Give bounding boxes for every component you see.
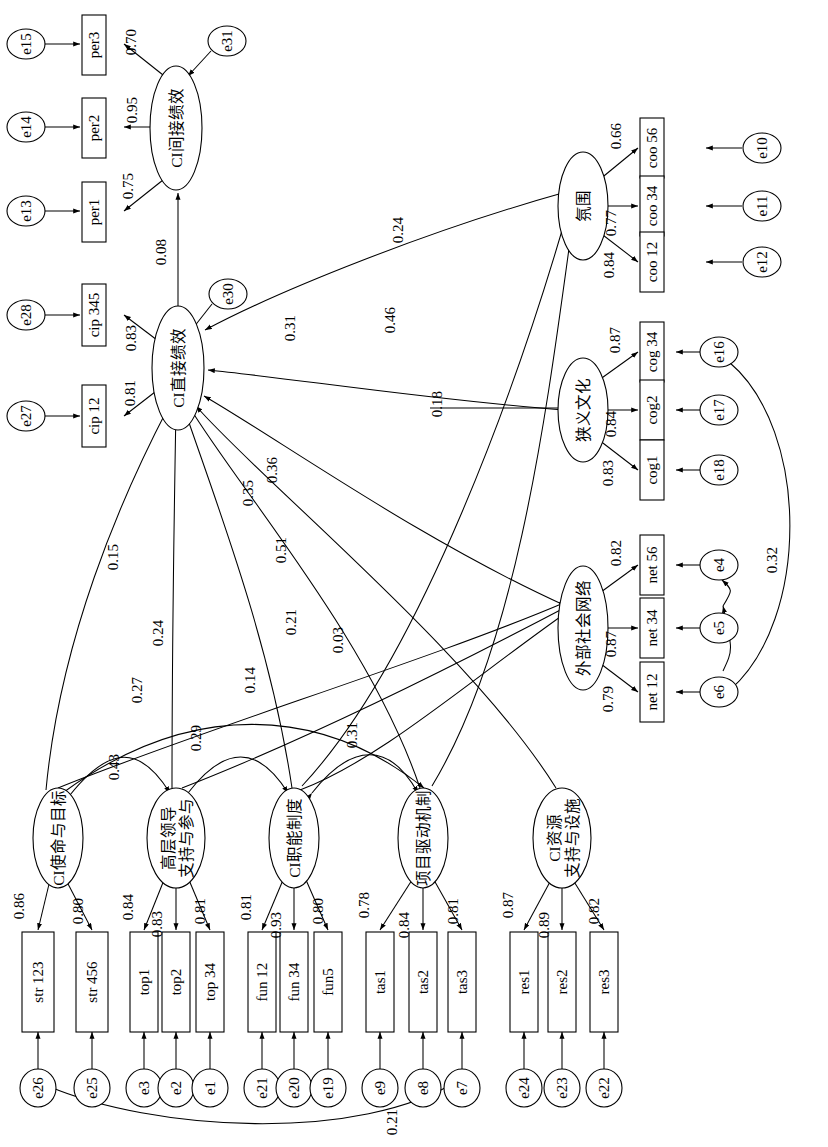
e31-label: e31 <box>219 30 235 52</box>
coef-cov-fun-project: 0.31 <box>344 722 360 748</box>
node-cip12: cip 12 <box>82 385 106 447</box>
net12-label: net 12 <box>644 673 660 710</box>
coef-cov-mission-top: 0.43 <box>106 754 122 780</box>
cip12-label: cip 12 <box>86 397 102 434</box>
node-e27: e27 <box>7 401 45 431</box>
coef-per1: 0.75 <box>120 173 136 199</box>
node-tas3: tas3 <box>448 932 476 1032</box>
node-e15: e15 <box>7 29 45 59</box>
latent-narrow-culture: 狭义文化 <box>558 358 608 462</box>
node-tas2: tas2 <box>409 932 437 1032</box>
e8-label: e8 <box>415 1081 431 1095</box>
coef-to-network-c: 0.03 <box>330 627 346 653</box>
e25-label: e25 <box>84 1077 100 1099</box>
node-e25: e25 <box>74 1069 110 1107</box>
node-cog2: cog2 <box>640 380 664 440</box>
node-str123: str 123 <box>22 932 54 1032</box>
e30-label: e30 <box>220 283 236 305</box>
node-str456: str 456 <box>76 932 108 1032</box>
node-e31: e31 <box>208 26 246 56</box>
node-coo12: coo 12 <box>640 232 664 292</box>
e26-label: e26 <box>30 1077 46 1099</box>
node-fun34: fun 34 <box>280 932 308 1032</box>
node-res2: res2 <box>548 932 576 1032</box>
e4-label: e4 <box>711 557 727 572</box>
fun5-label: fun5 <box>320 968 336 996</box>
tas3-label: tas3 <box>454 970 470 994</box>
node-e6: e6 <box>700 677 738 707</box>
node-e21: e21 <box>244 1069 280 1107</box>
mission-label: CI使命与目标 <box>50 790 67 886</box>
sem-diagram-canvas: e15 per3 e14 per2 e13 per1 e31 CI间接绩效 <box>0 0 828 1147</box>
coef-net56: 0.82 <box>608 540 624 566</box>
functional-system-label: CI职能制度 <box>286 798 303 878</box>
coef-cov-e7-e26: 0.21 <box>384 1109 400 1135</box>
node-e19: e19 <box>310 1069 346 1107</box>
coef-direct-to-indirect: 0.08 <box>153 239 169 265</box>
net34-label: net 34 <box>644 609 660 647</box>
latent-mission: CI使命与目标 <box>33 788 83 888</box>
project-mechanism-label: 项目驱动机制 <box>415 790 432 886</box>
node-fun12: fun 12 <box>248 932 276 1032</box>
e27-label: e27 <box>18 405 34 427</box>
e7-label: e7 <box>454 1080 470 1095</box>
e5-label: e5 <box>711 621 727 635</box>
coefficient-labels: 0.70 0.95 0.75 0.08 0.83 0.81 0.66 0.77 … <box>11 29 780 1135</box>
coo34-label: coo 34 <box>644 185 660 226</box>
coef-project-to-direct: 0.51 <box>273 537 289 563</box>
coef-coo34: 0.77 <box>603 209 619 236</box>
node-e5: e5 <box>700 613 738 643</box>
coef-fun12: 0.81 <box>238 894 254 920</box>
coef-climate-to-direct: 0.31 <box>282 315 298 341</box>
node-e2: e2 <box>158 1069 194 1107</box>
coef-tas2: 0.84 <box>396 911 412 938</box>
res1-label: res1 <box>516 970 532 995</box>
node-e17: e17 <box>700 395 738 425</box>
node-res3: res3 <box>590 932 618 1032</box>
coef-tas3: 0.81 <box>445 898 461 924</box>
node-net56: net 56 <box>640 535 664 595</box>
fun34-label: fun 34 <box>286 962 302 1001</box>
indirect-performance-label: CI间接绩效 <box>168 88 185 168</box>
node-res1: res1 <box>510 932 538 1032</box>
coef-top2: 0.83 <box>149 911 165 937</box>
node-top2: top2 <box>162 932 190 1032</box>
per1-label: per1 <box>86 199 102 226</box>
res2-label: res2 <box>554 970 570 995</box>
coef-cov-top-fun: 0.29 <box>188 725 204 751</box>
node-cip345: cip 345 <box>82 284 106 346</box>
cip345-label: cip 345 <box>86 293 102 338</box>
node-top34: top 34 <box>196 932 224 1032</box>
e28-label: e28 <box>18 304 34 326</box>
latent-functional-system: CI职能制度 <box>269 788 319 888</box>
node-e1: e1 <box>192 1069 228 1107</box>
coef-cov-e16-e6: 0.32 <box>764 547 780 573</box>
coef-cog1: 0.83 <box>600 460 616 486</box>
climate-label: 氛围 <box>575 190 592 222</box>
coo56-label: coo 56 <box>644 127 660 168</box>
node-e26: e26 <box>20 1069 56 1107</box>
e16-label: e16 <box>711 341 727 363</box>
coef-cip12: 0.81 <box>122 380 138 406</box>
coef-tas1: 0.78 <box>356 892 372 918</box>
node-top1: top1 <box>130 932 158 1032</box>
coef-per2: 0.95 <box>124 97 140 123</box>
e1-label: e1 <box>202 1081 218 1095</box>
coef-res2: 0.89 <box>536 912 552 938</box>
resource-support-label-2: 支持与设施 <box>564 798 581 878</box>
node-e10: e10 <box>743 133 781 163</box>
top-support-label-2: 支持与参与 <box>178 798 195 878</box>
top1-label: top1 <box>136 969 152 996</box>
tas1-label: tas1 <box>372 970 388 994</box>
latent-project-mechanism: 项目驱动机制 <box>398 788 448 888</box>
node-e12: e12 <box>743 247 781 277</box>
node-e18: e18 <box>700 455 738 485</box>
coef-res3: 0.82 <box>586 898 602 924</box>
e18-label: e18 <box>711 459 727 481</box>
coef-top1: 0.84 <box>120 893 136 920</box>
coef-to-network-a: 0.27 <box>129 676 145 703</box>
coef-str456: 0.80 <box>70 898 86 924</box>
node-e11: e11 <box>743 191 781 221</box>
coef-cog34: 0.87 <box>607 326 623 353</box>
coef-to-network-b: 0.14 <box>242 666 258 693</box>
